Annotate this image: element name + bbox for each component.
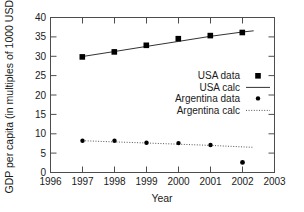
x-tick-label: 2001 — [199, 176, 222, 187]
chart-figure: 0 5 10 15 20 25 30 35 40 — [0, 0, 304, 212]
y-tick-label: 10 — [35, 128, 47, 139]
legend-marker-filled-square-icon — [255, 73, 261, 79]
x-axis-title: Year — [151, 192, 173, 204]
data-point — [208, 33, 214, 39]
y-tick-label: 40 — [35, 12, 47, 23]
legend-label-argentina-calc: Argentina calc — [177, 105, 240, 116]
data-point — [112, 49, 118, 55]
data-point — [240, 160, 245, 165]
data-point — [144, 141, 148, 145]
y-tick-label: 30 — [35, 51, 47, 62]
data-point — [80, 54, 86, 60]
y-tick-label: 20 — [35, 90, 47, 101]
data-point — [240, 30, 246, 36]
y-axis-title: GDP per capita (in multiples of 1000 USD… — [3, 0, 15, 194]
legend-label-usa-calc: USA calc — [199, 82, 240, 93]
data-point — [176, 141, 180, 145]
data-point — [112, 139, 116, 143]
x-tick-label: 1999 — [135, 176, 158, 187]
legend-label-argentina-data: Argentina data — [175, 93, 240, 104]
x-tick-label: 1996 — [39, 176, 62, 187]
data-point — [208, 143, 212, 147]
x-tick-label: 1998 — [103, 176, 126, 187]
data-point — [144, 43, 150, 49]
y-tick-label: 15 — [35, 109, 47, 120]
data-point — [176, 36, 182, 42]
y-tick-label: 25 — [35, 70, 47, 81]
legend-label-usa-data: USA data — [198, 70, 241, 81]
x-tick-label: 2000 — [167, 176, 190, 187]
chart-plot-area: 0 5 10 15 20 25 30 35 40 — [0, 0, 304, 212]
x-tick-label: 2003 — [263, 176, 286, 187]
x-tick-label: 1997 — [71, 176, 94, 187]
y-tick-label: 35 — [35, 31, 47, 42]
y-tick-label: 5 — [40, 148, 46, 159]
data-point — [80, 139, 84, 143]
x-tick-label: 2002 — [231, 176, 254, 187]
legend-marker-small-dot-icon — [256, 96, 260, 100]
